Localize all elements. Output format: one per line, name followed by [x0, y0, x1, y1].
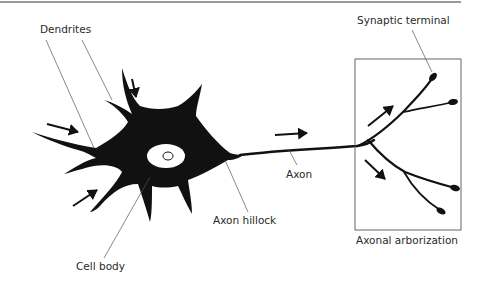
label-axon: Axon [286, 168, 312, 180]
arrow-icon [368, 106, 393, 126]
label-cell-body: Cell body [76, 260, 125, 272]
cell-body-shape [32, 68, 244, 222]
axon-shape [240, 140, 374, 155]
label-axon-hillock: Axon hillock [213, 214, 277, 226]
signal-direction-arrows [47, 79, 393, 206]
arrow-icon [73, 190, 97, 206]
arrow-icon [365, 160, 385, 179]
arrow-icon [275, 133, 307, 135]
arrow-icon [132, 79, 136, 97]
label-synaptic-terminal: Synaptic terminal [357, 14, 450, 26]
label-dendrites: Dendrites [40, 23, 91, 35]
neuron-diagram: Dendrites Synaptic terminal Axon Axon hi… [0, 0, 477, 281]
nucleus [147, 144, 185, 168]
label-axonal-arborization: Axonal arborization [356, 234, 458, 246]
arrow-icon [47, 124, 78, 132]
arborization-branches [358, 71, 461, 216]
